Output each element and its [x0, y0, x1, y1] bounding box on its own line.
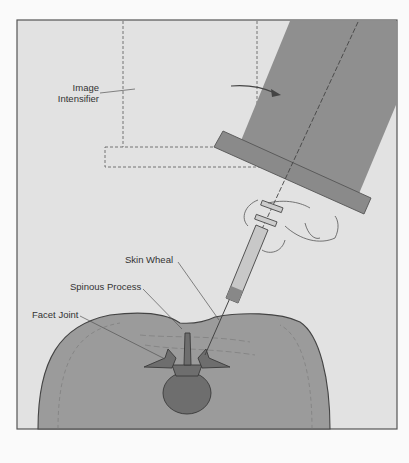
svg-text:Intensifier: Intensifier	[58, 93, 99, 104]
svg-text:Facet Joint: Facet Joint	[32, 309, 79, 320]
svg-text:Skin Wheal: Skin Wheal	[125, 254, 173, 265]
svg-text:Spinous Process: Spinous Process	[70, 281, 142, 292]
svg-text:Image: Image	[73, 82, 99, 93]
diagram-canvas: Image Intensifier Skin Wheal Spinous Pro…	[0, 0, 409, 463]
